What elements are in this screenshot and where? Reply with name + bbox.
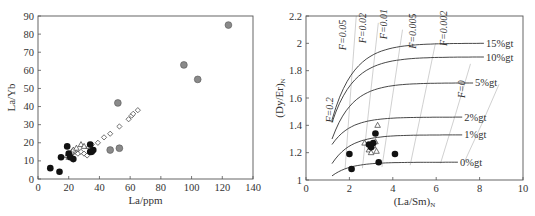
melting-curve <box>332 135 462 164</box>
data-point-grey-circle <box>107 147 114 154</box>
data-point-grey-circle <box>180 62 187 69</box>
data-point-open-diamond <box>101 135 106 140</box>
y-tick-label: 1.4 <box>289 120 303 131</box>
y-tick-label: 1.6 <box>289 93 302 104</box>
data-point-open-triangle <box>375 122 381 127</box>
data-point-black-circle <box>346 151 353 158</box>
y-tick-label: 1 <box>297 175 302 186</box>
x-tick-label: 4 <box>390 183 396 194</box>
melting-curve-label: 10%gt <box>486 52 513 63</box>
melting-curve-label: 1%gt <box>464 129 486 140</box>
x-tick-label: 120 <box>214 182 230 193</box>
data-point-grey-circle <box>114 100 121 107</box>
y-tick-label: 2.2 <box>289 11 302 22</box>
x-tick-label: 60 <box>125 182 136 193</box>
melting-curve-label: 15%gt <box>486 38 513 49</box>
melting-curve-label: 0%gt <box>460 157 482 168</box>
data-point-black-circle <box>56 168 63 175</box>
data-point-grey-circle <box>194 76 201 83</box>
data-point-open-triangle <box>374 148 380 153</box>
x-tick-label: 80 <box>156 182 167 193</box>
y-tick-label: 40 <box>24 101 35 112</box>
y-tick-label: 0 <box>29 174 34 185</box>
data-point-open-diamond <box>95 140 100 145</box>
y-axis-label: (Dy/Er)N <box>273 78 287 117</box>
y-tick-label: 10 <box>24 155 35 166</box>
data-point-black-circle <box>375 159 382 166</box>
y-tick-label: 80 <box>24 29 35 40</box>
data-point-black-circle <box>370 140 377 147</box>
y-tick-label: 60 <box>24 65 35 76</box>
data-point-open-diamond <box>117 124 122 129</box>
y-tick-label: 70 <box>24 47 35 58</box>
data-point-open-diamond <box>135 108 140 113</box>
x-tick-label: 2 <box>347 183 352 194</box>
y-tick-label: 1.8 <box>289 65 302 76</box>
figure: 0204060801001201400102030405060708090La/… <box>0 0 535 216</box>
data-point-black-circle <box>392 151 399 158</box>
melt-fraction-label: F=0.005 <box>407 13 418 49</box>
data-point-black-circle <box>58 154 65 161</box>
x-tick-label: 0 <box>35 182 40 193</box>
data-point-black-circle <box>87 141 94 148</box>
data-point-black-circle <box>47 165 54 172</box>
y-tick-label: 2 <box>297 38 302 49</box>
x-tick-label: 20 <box>63 182 74 193</box>
y-axis-label: La/Yb <box>5 83 17 112</box>
melt-fraction-contour <box>464 84 499 161</box>
melt-fraction-label: F=0 <box>456 80 467 99</box>
melt-fraction-label: F=0.002 <box>438 11 449 47</box>
melting-curve <box>332 117 462 144</box>
y-tick-label: 50 <box>24 83 35 94</box>
chart-la-vs-layb: 0204060801001201400102030405060708090La/… <box>5 11 261 207</box>
x-axis-label: (La/Sm)N <box>394 195 436 209</box>
melt-fraction-label: F=0.2 <box>324 97 335 123</box>
data-point-black-circle <box>372 130 379 137</box>
data-point-black-circle <box>70 156 77 163</box>
data-point-black-circle <box>348 166 355 173</box>
chart-canvas: 0204060801001201400102030405060708090La/… <box>0 0 535 216</box>
data-point-black-circle <box>64 143 71 150</box>
x-tick-label: 0 <box>303 183 308 194</box>
y-tick-label: 30 <box>24 119 35 130</box>
data-point-grey-circle <box>116 145 123 152</box>
chart-lasm-vs-dyer: 15%gt10%gt5%gt2%gt1%gt0%gt024681011.21.4… <box>273 9 528 209</box>
melt-fraction-label: F=0.01 <box>378 9 389 40</box>
y-tick-label: 20 <box>24 137 35 148</box>
x-tick-label: 140 <box>245 182 261 193</box>
melt-fraction-label: F=0.02 <box>357 13 368 44</box>
melting-curve <box>332 83 473 139</box>
x-axis-label: La/ppm <box>128 194 163 206</box>
data-point-grey-circle <box>225 22 232 29</box>
y-tick-label: 1.2 <box>289 147 302 158</box>
melting-curve-label: 5%gt <box>475 77 497 88</box>
data-point-open-diamond <box>108 131 113 136</box>
x-tick-label: 10 <box>518 183 529 194</box>
x-tick-label: 100 <box>184 182 200 193</box>
melt-fraction-label: F=0.05 <box>337 20 348 51</box>
x-tick-label: 8 <box>477 183 482 194</box>
y-tick-label: 90 <box>24 11 35 22</box>
melt-fraction-contour <box>410 43 435 165</box>
x-tick-label: 6 <box>434 183 439 194</box>
melting-curve-label: 2%gt <box>464 112 486 123</box>
x-tick-label: 40 <box>94 182 105 193</box>
